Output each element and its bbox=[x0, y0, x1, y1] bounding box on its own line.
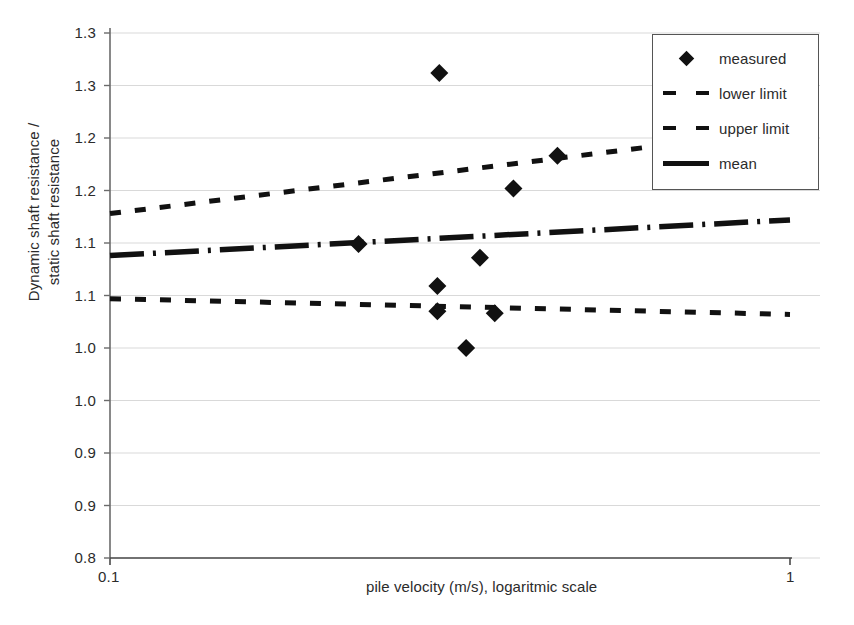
data-point-diamond bbox=[471, 249, 489, 267]
data-point-diamond bbox=[428, 277, 446, 295]
data-point-diamond bbox=[430, 64, 448, 82]
y-tick-label: 1.3 bbox=[52, 24, 96, 41]
data-point-diamond bbox=[457, 339, 475, 357]
trend-line-mean bbox=[110, 220, 790, 256]
legend-solid-line-icon bbox=[653, 148, 719, 178]
trend-line-lower-limit bbox=[110, 299, 790, 315]
y-tick-label: 0.9 bbox=[52, 444, 96, 461]
x-axis-title: pile velocity (m/s), logaritmic scale bbox=[366, 578, 597, 595]
y-tick-label: 1.0 bbox=[52, 392, 96, 409]
chart-figure: 1.31.31.21.21.11.11.01.00.90.90.8 0.11 D… bbox=[0, 0, 854, 625]
data-point-diamond bbox=[504, 179, 522, 197]
legend-label: measured bbox=[719, 50, 787, 67]
legend-item-mean: mean bbox=[653, 148, 820, 178]
data-point-diamond bbox=[548, 147, 566, 165]
data-point-diamond bbox=[350, 235, 368, 253]
legend-item-upper-limit: upper limit bbox=[653, 113, 820, 143]
legend-label: upper limit bbox=[719, 120, 789, 137]
solid-line-icon bbox=[663, 161, 709, 166]
chart-legend: measuredlower limitupper limitmean bbox=[652, 34, 819, 190]
y-axis-title: Dynamic shaft resistance / static shaft … bbox=[22, 62, 66, 362]
legend-item-lower-limit: lower limit bbox=[653, 78, 820, 108]
y-tick-label: 0.8 bbox=[52, 549, 96, 566]
y-tick-label: 0.9 bbox=[52, 497, 96, 514]
legend-item-measured: measured bbox=[653, 43, 820, 73]
x-tick-label: 1 bbox=[786, 568, 795, 585]
y-axis-title-line-1: Dynamic shaft resistance / bbox=[24, 123, 44, 302]
dashed-line-icon bbox=[663, 126, 709, 130]
legend-diamond-icon bbox=[653, 43, 719, 73]
legend-dashed-line-icon bbox=[653, 113, 719, 143]
measured-points bbox=[350, 64, 567, 357]
legend-label: lower limit bbox=[719, 85, 787, 102]
legend-label: mean bbox=[719, 155, 757, 172]
legend-dashed-line-icon bbox=[653, 78, 719, 108]
diamond-icon bbox=[678, 50, 694, 66]
x-tick-label: 0.1 bbox=[98, 568, 119, 585]
y-axis-title-line-2: static shaft resistance bbox=[44, 139, 64, 286]
dashed-line-icon bbox=[663, 91, 709, 95]
y-tick-marks bbox=[104, 33, 110, 558]
